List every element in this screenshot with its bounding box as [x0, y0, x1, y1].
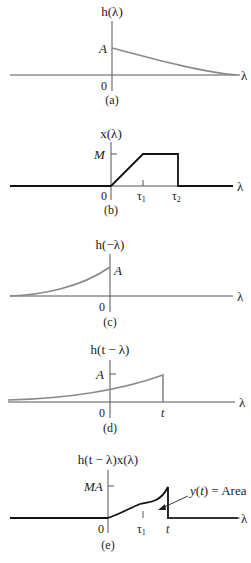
panel-a-ylabel: h(λ): [101, 4, 122, 19]
panel-a-decay-curve: [112, 48, 237, 75]
panel-b-origin: 0: [101, 189, 107, 203]
panel-b-level-M: M: [93, 147, 106, 162]
panel-b-input-signal: [111, 154, 233, 186]
panel-e-ylabel: h(t − λ)x(λ): [78, 452, 138, 467]
panel-d-caption: (d): [103, 421, 117, 435]
panel-e-tau1: τ1: [137, 522, 146, 537]
panel-e-origin: 0: [98, 522, 104, 536]
panel-c-ylabel: h(−λ): [96, 237, 125, 252]
panel-a-lambda: λ: [241, 68, 248, 83]
panel-e-lambda: λ: [241, 511, 248, 526]
panel-e-caption: (e): [101, 538, 114, 552]
panel-b-lambda: λ: [237, 179, 244, 194]
panel-a-caption: (a): [105, 93, 118, 107]
panel-e: h(t − λ)x(λ) MA y(t) = Area 0 τ1 t λ (e): [10, 452, 248, 552]
convolution-figure: h(λ) A 0 λ (a) x(λ) M 0 τ1 τ2 λ (b) h(−λ…: [0, 0, 251, 563]
panel-c-reversed-curve: [10, 267, 110, 296]
panel-d-shifted-curve: [8, 375, 163, 402]
panel-d-origin: 0: [99, 406, 105, 420]
panel-c-origin: 0: [99, 300, 105, 314]
panel-d-level-A: A: [95, 367, 104, 382]
panel-d-ylabel: h(t − λ): [91, 342, 130, 357]
panel-d-lambda: λ: [239, 395, 246, 410]
panel-e-area-label: y(t) = Area: [188, 483, 247, 498]
panel-e-level-MA: MA: [83, 479, 103, 494]
panel-a: h(λ) A 0 λ (a): [10, 4, 248, 107]
panel-c-lambda: λ: [237, 289, 244, 304]
panel-d-t: t: [161, 406, 165, 420]
panel-c: h(−λ) A 0 λ (c): [10, 237, 244, 329]
panel-e-t: t: [166, 522, 170, 536]
panel-a-level-A: A: [98, 41, 107, 56]
panel-b-caption: (b): [104, 203, 118, 217]
panel-b: x(λ) M 0 τ1 τ2 λ (b): [10, 126, 244, 217]
panel-b-tau1: τ1: [137, 189, 146, 204]
panel-c-level-A: A: [113, 263, 122, 278]
panel-e-area-arrow: [162, 496, 188, 508]
panel-a-origin: 0: [101, 79, 107, 93]
panel-d: h(t − λ) A 0 t λ (d): [8, 342, 246, 435]
arrowhead-icon: [158, 504, 166, 510]
panel-c-caption: (c): [103, 315, 116, 329]
panel-b-tau2: τ2: [172, 189, 181, 204]
panel-b-ylabel: x(λ): [100, 126, 121, 141]
